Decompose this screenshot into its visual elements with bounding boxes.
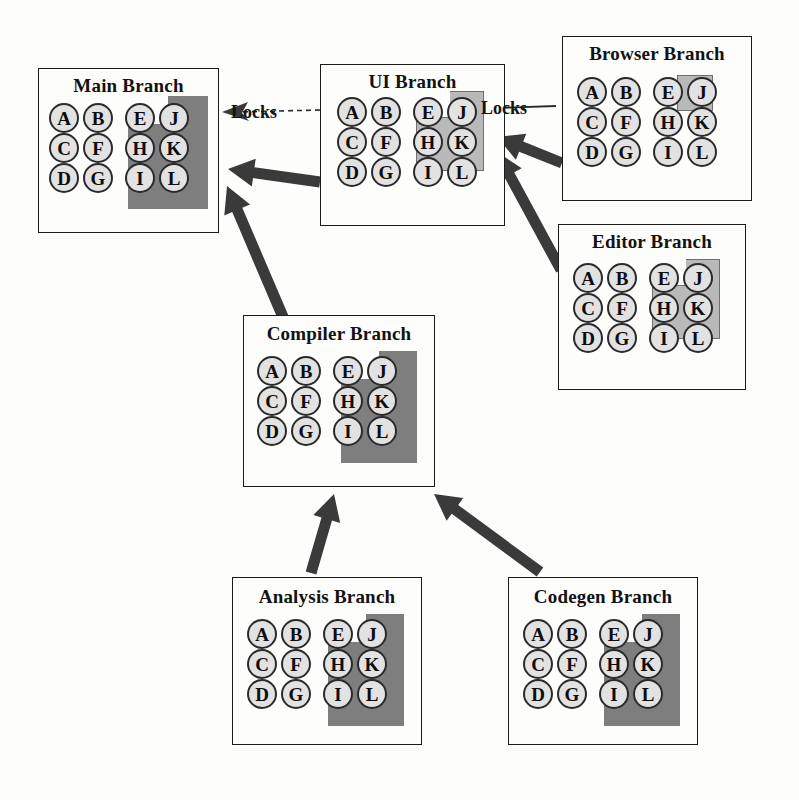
node-browser-h[interactable]: H [653,107,683,137]
branch-box-compiler[interactable]: Compiler BranchABEJCFHKDGIL [243,315,435,487]
node-compiler-f[interactable]: F [291,386,321,416]
node-editor-g[interactable]: G [607,323,637,353]
node-ui-h[interactable]: H [413,127,443,157]
node-editor-i[interactable]: I [649,323,679,353]
arrow-codegen-to-compiler [434,494,543,576]
node-analysis-j[interactable]: J [357,619,387,649]
node-compiler-d[interactable]: D [257,416,287,446]
node-codegen-a[interactable]: A [523,619,553,649]
branch-title-editor: Editor Branch [559,231,745,253]
node-editor-k[interactable]: K [683,293,713,323]
node-main-b[interactable]: B [83,103,113,133]
node-main-a[interactable]: A [49,103,79,133]
node-codegen-l[interactable]: L [633,679,663,709]
node-analysis-b[interactable]: B [281,619,311,649]
node-compiler-i[interactable]: I [333,416,363,446]
node-compiler-c[interactable]: C [257,386,287,416]
node-ui-i[interactable]: I [413,157,443,187]
node-ui-c[interactable]: C [337,127,367,157]
node-codegen-g[interactable]: G [557,679,587,709]
node-compiler-a[interactable]: A [257,356,287,386]
node-ui-a[interactable]: A [337,97,367,127]
node-codegen-i[interactable]: I [599,679,629,709]
node-compiler-j[interactable]: J [367,356,397,386]
branch-box-analysis[interactable]: Analysis BranchABEJCFHKDGIL [232,577,422,745]
branch-box-main[interactable]: Main BranchABEJCFHKDGIL [38,68,219,233]
node-browser-c[interactable]: C [577,107,607,137]
node-compiler-k[interactable]: K [367,386,397,416]
node-main-i[interactable]: I [125,163,155,193]
node-editor-a[interactable]: A [573,263,603,293]
node-editor-j[interactable]: J [683,263,713,293]
node-compiler-e[interactable]: E [333,356,363,386]
node-codegen-f[interactable]: F [557,649,587,679]
node-ui-j[interactable]: J [447,97,477,127]
node-editor-c[interactable]: C [573,293,603,323]
node-ui-g[interactable]: G [371,157,401,187]
branch-box-browser[interactable]: Browser BranchABEJCFHKDGIL [562,36,752,201]
node-compiler-b[interactable]: B [291,356,321,386]
branch-box-editor[interactable]: Editor BranchABEJCFHKDGIL [558,224,746,390]
branch-title-codegen: Codegen Branch [509,586,697,608]
node-editor-d[interactable]: D [573,323,603,353]
node-analysis-a[interactable]: A [247,619,277,649]
branch-title-browser: Browser Branch [563,43,751,65]
node-codegen-c[interactable]: C [523,649,553,679]
node-browser-i[interactable]: I [653,137,683,167]
node-ui-d[interactable]: D [337,157,367,187]
node-codegen-e[interactable]: E [599,619,629,649]
node-main-k[interactable]: K [159,133,189,163]
node-analysis-d[interactable]: D [247,679,277,709]
node-ui-k[interactable]: K [447,127,477,157]
node-compiler-g[interactable]: G [291,416,321,446]
node-compiler-l[interactable]: L [367,416,397,446]
node-main-d[interactable]: D [49,163,79,193]
node-codegen-h[interactable]: H [599,649,629,679]
node-codegen-j[interactable]: J [633,619,663,649]
node-analysis-c[interactable]: C [247,649,277,679]
node-analysis-f[interactable]: F [281,649,311,679]
node-main-e[interactable]: E [125,103,155,133]
node-browser-f[interactable]: F [611,107,641,137]
node-editor-h[interactable]: H [649,293,679,323]
node-browser-e[interactable]: E [653,77,683,107]
arrow-ui-to-main [228,159,321,188]
node-browser-k[interactable]: K [687,107,717,137]
node-editor-l[interactable]: L [683,323,713,353]
node-codegen-k[interactable]: K [633,649,663,679]
node-analysis-h[interactable]: H [323,649,353,679]
node-browser-j[interactable]: J [687,77,717,107]
node-main-c[interactable]: C [49,133,79,163]
node-browser-d[interactable]: D [577,137,607,167]
node-main-j[interactable]: J [159,103,189,133]
node-editor-e[interactable]: E [649,263,679,293]
arrow-compiler-to-main [224,186,288,319]
node-main-l[interactable]: L [159,163,189,193]
node-codegen-b[interactable]: B [557,619,587,649]
node-ui-l[interactable]: L [447,157,477,187]
node-main-f[interactable]: F [83,133,113,163]
node-ui-f[interactable]: F [371,127,401,157]
node-main-h[interactable]: H [125,133,155,163]
arrow-analysis-to-compiler [306,494,341,575]
node-analysis-l[interactable]: L [357,679,387,709]
node-browser-a[interactable]: A [577,77,607,107]
node-ui-b[interactable]: B [371,97,401,127]
node-editor-f[interactable]: F [607,293,637,323]
node-analysis-i[interactable]: I [323,679,353,709]
node-ui-e[interactable]: E [413,97,443,127]
branch-title-ui: UI Branch [321,71,504,93]
node-analysis-g[interactable]: G [281,679,311,709]
branch-box-codegen[interactable]: Codegen BranchABEJCFHKDGIL [508,577,698,745]
lock-ui-label: Locks [481,98,527,119]
node-browser-b[interactable]: B [611,77,641,107]
node-codegen-d[interactable]: D [523,679,553,709]
node-browser-l[interactable]: L [687,137,717,167]
node-analysis-k[interactable]: K [357,649,387,679]
node-main-g[interactable]: G [83,163,113,193]
node-analysis-e[interactable]: E [323,619,353,649]
node-compiler-h[interactable]: H [333,386,363,416]
node-browser-g[interactable]: G [611,137,641,167]
node-editor-b[interactable]: B [607,263,637,293]
branch-box-ui[interactable]: UI BranchABEJCFHKDGIL [320,64,505,226]
